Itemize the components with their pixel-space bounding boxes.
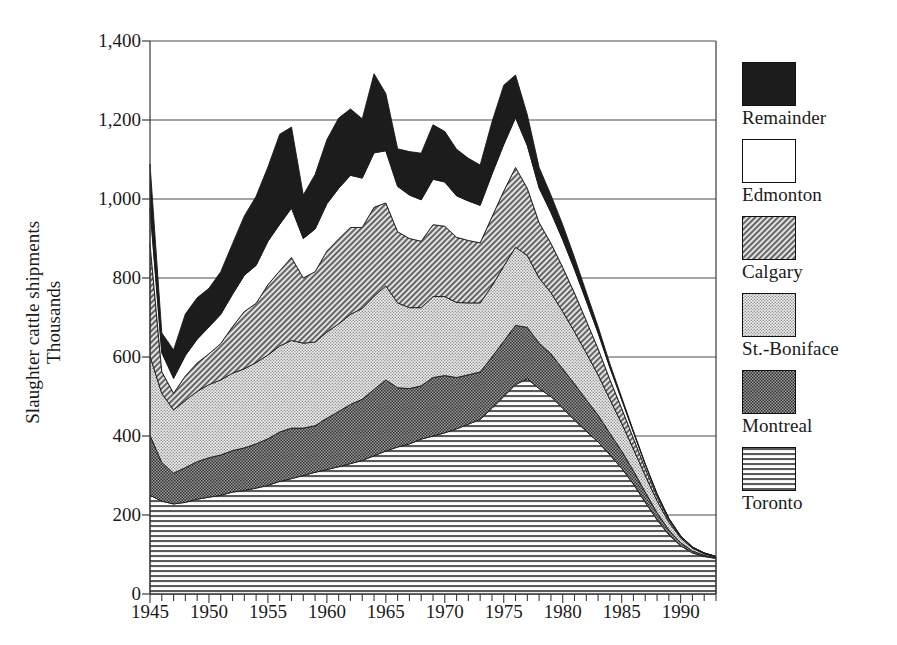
- x-axis-tick-label: 1950: [190, 601, 228, 623]
- legend-item[interactable]: Calgary: [742, 216, 892, 283]
- x-axis-tick-label: 1965: [367, 601, 405, 623]
- legend-label: Calgary: [742, 261, 892, 283]
- legend-swatch-solid-black: [742, 62, 796, 106]
- legend-label: Montreal: [742, 415, 892, 437]
- legend-label: Remainder: [742, 107, 892, 129]
- legend-swatch-horizontal-stripes: [742, 447, 796, 491]
- legend-swatch-diagonal-hatch: [742, 216, 796, 260]
- stacked-areas: [150, 74, 716, 594]
- x-axis-tick-label: 1955: [249, 601, 287, 623]
- legend-swatch-light-dots: [742, 293, 796, 337]
- legend-swatch-dark-dots: [742, 370, 796, 414]
- legend-label: Edmonton: [742, 184, 892, 206]
- legend-item[interactable]: Remainder: [742, 62, 892, 129]
- x-axis-tick-label: 1960: [308, 601, 346, 623]
- legend-item[interactable]: Edmonton: [742, 139, 892, 206]
- chart-figure: Slaughter cattle shipments Thousands 020…: [0, 0, 897, 645]
- x-axis-tick-label: 1990: [662, 601, 700, 623]
- x-axis-tick-label: 1970: [426, 601, 464, 623]
- x-axis-tick-label: 1985: [603, 601, 641, 623]
- legend-item[interactable]: St.-Boniface: [742, 293, 892, 360]
- legend-label: St.-Boniface: [742, 338, 892, 360]
- legend-item[interactable]: Montreal: [742, 370, 892, 437]
- x-axis-tick-label: 1945: [131, 601, 169, 623]
- chart-legend: RemainderEdmontonCalgarySt.-BonifaceMont…: [742, 62, 892, 524]
- legend-label: Toronto: [742, 492, 892, 514]
- legend-item[interactable]: Toronto: [742, 447, 892, 514]
- x-axis-tick-labels: 1945195019551960196519701975198019851990: [0, 599, 897, 639]
- legend-swatch-white: [742, 139, 796, 183]
- x-axis-tick-label: 1975: [485, 601, 523, 623]
- x-axis-tick-label: 1980: [544, 601, 582, 623]
